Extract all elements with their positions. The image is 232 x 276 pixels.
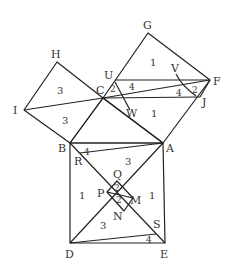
label-i: I [13, 104, 17, 117]
label-q: Q [113, 168, 122, 181]
region-number: 3 [100, 220, 106, 231]
label-m: M [130, 194, 141, 207]
region-number: 3 [62, 115, 68, 126]
square-bchi [24, 62, 103, 143]
label-e: E [160, 248, 168, 261]
region-number: 2 [114, 183, 120, 193]
label-b: B [58, 142, 66, 155]
region-number: 1 [151, 108, 157, 119]
segment-ra [80, 143, 163, 153]
label-h: H [51, 48, 61, 61]
vertex-labels: G H U V F I C J W B A R Q P M N S D E [13, 19, 221, 261]
segment-fj [200, 80, 210, 97]
region-number: 3 [125, 156, 131, 167]
region-number: 1 [150, 57, 156, 68]
diagonal-ic [24, 98, 103, 110]
region-number: 4 [129, 82, 135, 92]
label-s: S [153, 218, 161, 231]
segment-cj [103, 97, 200, 98]
region-number: 4 [146, 235, 152, 245]
label-g: G [143, 19, 152, 32]
segment-ds [70, 234, 156, 243]
label-r: R [74, 155, 83, 168]
label-j: J [201, 96, 206, 109]
triangle-abc [70, 98, 163, 143]
label-v: V [170, 62, 180, 75]
region-number: 3 [57, 85, 63, 96]
label-c: C [96, 84, 104, 97]
region-number: 2 [192, 85, 198, 95]
label-u: U [104, 69, 113, 82]
label-n: N [113, 210, 123, 223]
region-number: 4 [176, 88, 182, 98]
region-number: 1 [79, 190, 85, 201]
region-number: 1 [149, 190, 155, 201]
label-p: P [97, 187, 105, 200]
region-number: 4 [84, 147, 90, 157]
region-number: 2 [110, 84, 116, 94]
label-d: D [65, 248, 74, 261]
region-number: 2 [116, 195, 122, 205]
label-a: A [165, 142, 175, 155]
label-w: W [126, 107, 138, 120]
pythagorean-diagram: G H U V F I C J W B A R Q P M N S D E 1 … [0, 0, 232, 276]
label-f: F [213, 75, 221, 88]
